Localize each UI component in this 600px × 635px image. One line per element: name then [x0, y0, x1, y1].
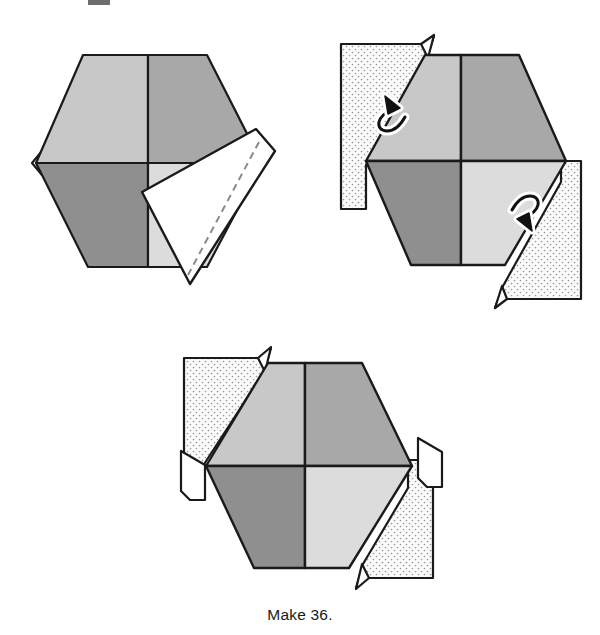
figure-3-quadrant-bottom-left [206, 466, 305, 568]
figure-2 [341, 35, 581, 308]
figure-2-quadrant-top-right [461, 55, 566, 161]
assembly-diagram-svg [0, 0, 600, 635]
figure-3-right-white-tab [418, 438, 442, 487]
figure-1 [32, 55, 275, 284]
figure-3-quadrant-top-right [305, 363, 412, 466]
figure-1-quadrant-top-left [36, 55, 148, 163]
diagram-root: Make 36. [0, 0, 600, 635]
figure-1-quadrant-bottom-left [36, 163, 148, 267]
figure-caption: Make 36. [0, 606, 600, 624]
figure-3 [181, 347, 442, 589]
figure-2-quadrant-bottom-left [366, 161, 461, 265]
